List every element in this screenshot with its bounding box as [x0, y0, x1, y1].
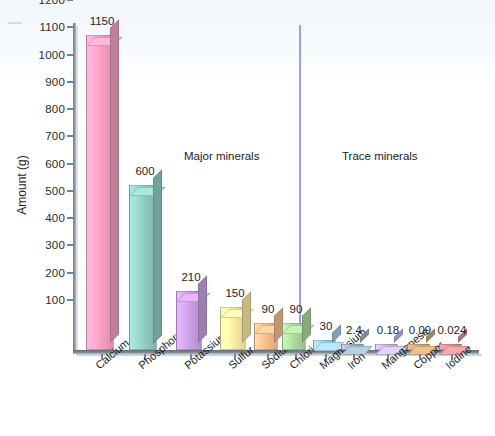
bar-value-label: 0.09	[409, 324, 431, 336]
bar-sulfur	[220, 309, 244, 350]
bar-value-label: 90	[262, 303, 275, 315]
bar-side-face	[302, 308, 311, 343]
bar-value-label: 210	[181, 271, 200, 283]
bar-value-label: 0.18	[377, 324, 399, 336]
bars-layer: 1150Calcium600Phosphorus210Potassium150S…	[0, 0, 495, 436]
bar-side-face	[110, 19, 119, 343]
bar-side-face	[198, 275, 207, 343]
bar-side-face	[242, 291, 251, 343]
bar-side-face	[153, 169, 162, 343]
bar-sodium	[254, 325, 276, 350]
bar-side-face	[332, 324, 341, 343]
bar-value-label: 1150	[90, 15, 115, 27]
bar-potassium	[176, 293, 200, 350]
bar-calcium	[86, 37, 112, 350]
bar-magnesium	[313, 342, 334, 350]
bar-value-label: 30	[320, 320, 333, 332]
bar-value-label: 150	[225, 287, 244, 299]
bar-value-label: 600	[135, 165, 154, 177]
mineral-amount-bar-chart: 120011001000900800700600500400300200100 …	[0, 0, 495, 436]
bar-phosphorus	[129, 187, 155, 351]
bar-value-label: 90	[290, 303, 303, 315]
bar-value-label: 2.4	[346, 324, 362, 336]
bar-chloride	[282, 325, 304, 350]
bar-value-label: 0.024	[438, 324, 467, 336]
